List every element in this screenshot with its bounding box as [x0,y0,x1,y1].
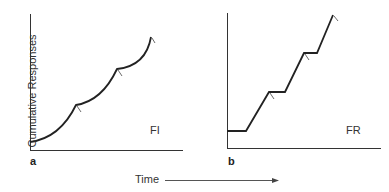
panel-a-axes [30,14,183,151]
time-arrow [165,178,279,183]
y-axis-label: Cumulative Responses [26,21,38,161]
panel-a-fi-curve [30,37,151,142]
panel-a-letter: a [30,155,36,167]
panel-a-schedule-label: FI [150,124,160,136]
panel-b-schedule-label: FR [346,124,361,136]
cumulative-records-figure [0,0,389,192]
panel-b-letter: b [228,155,235,167]
x-axis-label: Time [135,173,159,185]
panel-b-fr-curve [227,15,333,131]
